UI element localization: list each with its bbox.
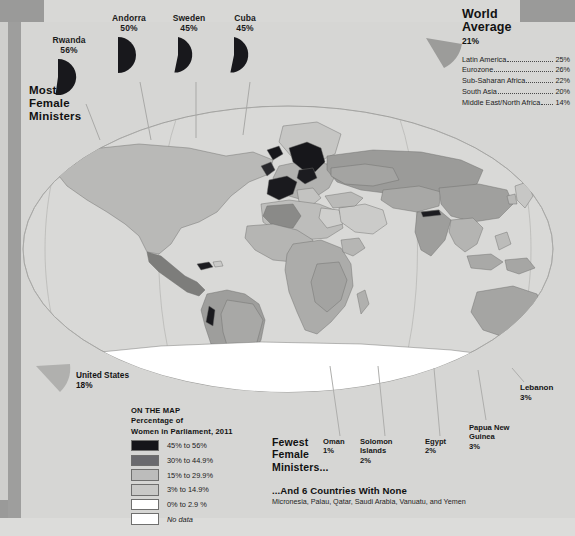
fewest-heading-line-1: Fewest	[272, 436, 329, 448]
region-name: South Asia	[462, 87, 497, 98]
country-name-line: Papua New	[469, 423, 510, 432]
infographic-page: Rwanda56% Andorra50% Sweden45% Cuba45% M	[0, 0, 575, 536]
legend-item: 45% to 56%	[131, 440, 251, 452]
legend-label: 45% to 56%	[167, 441, 207, 450]
pie-country-name: Andorra	[112, 13, 146, 23]
world-average-title: World Average	[462, 8, 570, 34]
pie-country-value: 56%	[60, 45, 77, 55]
united-states-value: 18%	[76, 381, 129, 391]
country-name-line: Solomon	[360, 437, 392, 446]
fewest-country-papua-new-guinea: Papua New Guinea 3%	[469, 423, 510, 451]
pie-country-name: Rwanda	[52, 35, 85, 45]
pie-chart-cuba	[214, 35, 254, 75]
none-section-title: ...And 6 Countries With None	[272, 485, 407, 496]
pie-chart-world-average	[422, 30, 464, 70]
world-average-title-line1: World	[462, 8, 570, 21]
legend-label: 30% to 44.9%	[167, 456, 213, 465]
legend-item: 3% to 14.9%	[131, 484, 251, 496]
region-value: 22%	[555, 76, 570, 87]
legend-label: No data	[167, 515, 193, 524]
regional-average-row: South Asia 20%	[462, 87, 570, 98]
pie-callout-andorra: Andorra50%	[98, 14, 160, 79]
region-value: 20%	[555, 87, 570, 98]
pie-country-name: Sweden	[173, 13, 206, 23]
most-female-ministers-heading: Most Female Ministers	[29, 84, 81, 123]
legend-title-line2: Percentage of	[131, 416, 251, 426]
pie-callout-sweden: Sweden45%	[158, 14, 220, 79]
legend-swatch	[131, 469, 159, 481]
lebanon-value: 3%	[520, 393, 553, 403]
region-value: 25%	[555, 55, 570, 66]
pie-chart-sweden	[158, 35, 198, 75]
world-average-panel: World Average 21% Latin America 25% Euro…	[462, 8, 570, 108]
region-value: 26%	[555, 65, 570, 76]
pie-chart-andorra	[98, 35, 138, 75]
region-name: Latin America	[462, 55, 506, 66]
page-bottom-strip	[0, 518, 575, 536]
legend-item: No data	[131, 513, 251, 525]
legend-swatch	[131, 513, 159, 525]
legend-label: 3% to 14.9%	[167, 485, 209, 494]
legend-title-line1: ON THE MAP	[131, 406, 251, 416]
fewest-female-ministers-heading: Fewest Female Ministers...	[272, 436, 329, 473]
pie-country-name: Cuba	[234, 13, 256, 23]
legend-title-line3: Women in Parliament, 2011	[131, 427, 251, 437]
dot-leader	[526, 82, 553, 83]
dot-leader	[541, 104, 553, 105]
regional-average-row: Latin America 25%	[462, 55, 570, 66]
regional-average-row: Middle East/North Africa 14%	[462, 98, 570, 109]
dot-leader	[507, 61, 553, 62]
legend-swatch	[131, 440, 159, 452]
dot-leader	[494, 71, 553, 72]
region-name: Eurozone	[462, 65, 493, 76]
heading-line-3: Ministers	[29, 110, 81, 123]
fewest-heading-line-2: Female	[272, 448, 329, 460]
pie-country-value: 45%	[236, 23, 253, 33]
region-value: 14%	[555, 98, 570, 109]
pie-callout-cuba: Cuba45%	[214, 14, 276, 79]
regional-average-row: Eurozone 26%	[462, 65, 570, 76]
country-name-line: Guinea	[469, 432, 510, 441]
country-value: 1%	[323, 446, 345, 455]
world-map-svg	[21, 104, 556, 394]
fewest-country-solomon-islands: Solomon Islands 2%	[360, 437, 392, 465]
world-average-value: 21%	[462, 36, 570, 46]
page-gutter-left	[8, 22, 21, 519]
pie-country-value: 45%	[180, 23, 197, 33]
legend-item: 30% to 44.9%	[131, 455, 251, 467]
country-name-line: Oman	[323, 437, 345, 446]
page-corner-bar-top-left	[0, 0, 44, 22]
legend-item: 0% to 2.9 %	[131, 499, 251, 511]
lebanon-name: Lebanon	[520, 383, 553, 393]
legend-swatch	[131, 499, 159, 511]
lebanon-callout: Lebanon 3%	[520, 383, 553, 402]
legend-swatch	[131, 455, 159, 467]
dot-leader	[498, 93, 554, 94]
none-section-list: Micronesia, Palau, Qatar, Saudi Arabia, …	[272, 497, 466, 506]
pie-chart-united-states	[34, 362, 74, 396]
world-average-title-line2: Average	[462, 21, 570, 34]
legend-item: 15% to 29.9%	[131, 469, 251, 481]
map-legend: ON THE MAP Percentage of Women in Parlia…	[131, 406, 251, 525]
legend-swatch	[131, 484, 159, 496]
world-map	[21, 104, 556, 394]
heading-line-1: Most	[29, 84, 81, 97]
country-name-line: Islands	[360, 446, 392, 455]
legend-title: ON THE MAP Percentage of Women in Parlia…	[131, 406, 251, 437]
regional-average-row: Sub-Saharan Africa 22%	[462, 76, 570, 87]
united-states-callout: United States 18%	[76, 371, 129, 391]
country-value: 2%	[360, 456, 392, 465]
legend-label: 0% to 2.9 %	[167, 500, 207, 509]
country-value: 3%	[469, 442, 510, 451]
regional-average-list: Latin America 25% Eurozone 26% Sub-Sahar…	[462, 55, 570, 109]
fewest-country-egypt: Egypt 2%	[425, 437, 446, 456]
region-name: Middle East/North Africa	[462, 98, 540, 109]
country-value: 2%	[425, 446, 446, 455]
pie-country-value: 50%	[120, 23, 137, 33]
legend-label: 15% to 29.9%	[167, 471, 213, 480]
region-name: Sub-Saharan Africa	[462, 76, 525, 87]
heading-line-2: Female	[29, 97, 81, 110]
country-name-line: Egypt	[425, 437, 446, 446]
fewest-country-oman: Oman 1%	[323, 437, 345, 456]
fewest-heading-line-3: Ministers...	[272, 461, 329, 473]
